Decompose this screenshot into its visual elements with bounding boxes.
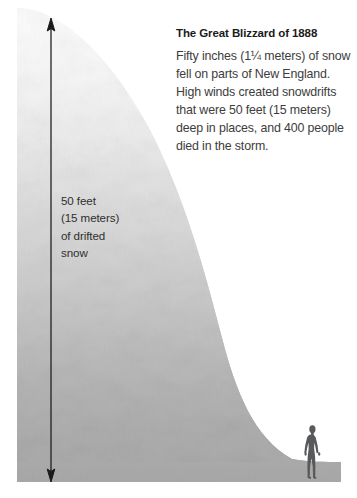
blizzard-infographic: 50 feet (15 meters) of drifted snow The …	[0, 0, 357, 498]
callout-title: The Great Blizzard of 1888	[176, 26, 351, 40]
callout-body-text: Fifty inches (1¼ meters) of snow fell on…	[176, 47, 354, 156]
ground-strip	[17, 462, 341, 482]
depth-measure-label: 50 feet (15 meters) of drifted snow	[61, 192, 171, 261]
